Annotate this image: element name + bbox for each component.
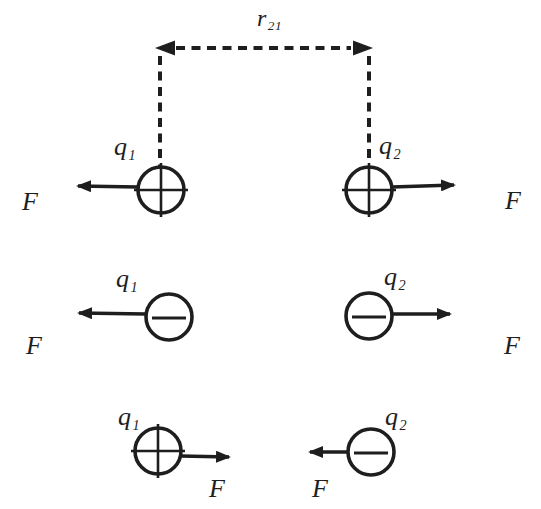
plus-icon [134, 163, 188, 217]
distance-subscript: 21 [268, 18, 282, 33]
force-arrow-right [181, 456, 229, 457]
row2-left-negative-charge [79, 294, 192, 340]
charge-label-row2-q1: q1 [116, 266, 138, 292]
row2-right-negative-charge [346, 293, 450, 339]
force-label-row3-right: F [312, 476, 328, 502]
charge-label-row1-q2: q2 [379, 133, 401, 159]
charge-label-row1-q1: q1 [114, 134, 136, 160]
row3-right-negative-charge [310, 429, 394, 475]
charge-force-diagram: r21 q1 q2 F F q1 q2 F F q1 q2 F F [0, 0, 541, 509]
distance-left-arrowhead-icon [155, 41, 175, 56]
force-arrow-left [79, 313, 146, 314]
plus-icon [342, 163, 396, 217]
row1-left-positive-charge [78, 163, 188, 217]
force-label-row1-right: F [505, 188, 521, 214]
force-label-row3-left: F [209, 476, 225, 502]
distance-right-arrowhead-icon [353, 41, 373, 56]
force-arrow-right [392, 185, 454, 187]
force-label-row1-left: F [22, 189, 38, 215]
distance-marker [155, 41, 373, 167]
distance-label-r21: r21 [257, 6, 282, 30]
force-label-row2-right: F [504, 333, 520, 359]
charge-label-row2-q2: q2 [384, 264, 406, 290]
row3-left-positive-charge [131, 424, 229, 478]
diagram-graphics [0, 0, 541, 509]
force-label-row2-left: F [26, 333, 42, 359]
row1-right-positive-charge [342, 163, 454, 217]
charge-label-row3-q1: q1 [118, 404, 140, 430]
distance-symbol: r [257, 5, 267, 31]
charge-label-row3-q2: q2 [385, 404, 407, 430]
force-arrow-left [78, 186, 138, 187]
